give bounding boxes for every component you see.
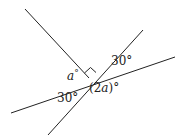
line-upper-left <box>25 9 89 78</box>
angle-2a-label: (2a)° <box>89 81 119 95</box>
right-angle-marker <box>85 68 97 74</box>
angle-a-label: a° <box>67 68 79 83</box>
angle-30-lower-label: 30° <box>57 91 78 105</box>
angle-diagram: a° 30° (2a)° 30° <box>0 0 186 140</box>
angle-30-upper-label: 30° <box>111 54 132 68</box>
